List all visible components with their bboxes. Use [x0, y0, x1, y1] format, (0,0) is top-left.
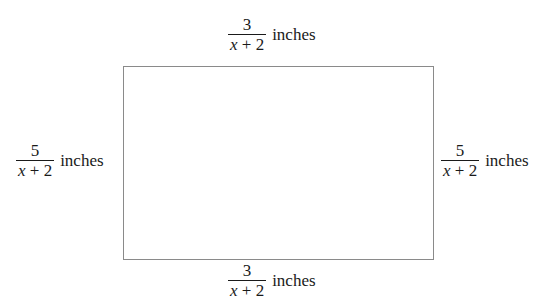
numerator: 5: [454, 142, 467, 160]
unit: inches: [272, 25, 315, 45]
left-side-label: 5 x + 2 inches: [16, 142, 104, 180]
fraction: 3 x + 2: [228, 16, 266, 54]
unit: inches: [485, 151, 528, 171]
bottom-side-label: 3 x + 2 inches: [228, 262, 316, 300]
denominator: x + 2: [228, 281, 266, 300]
unit: inches: [60, 151, 103, 171]
variable: x: [230, 281, 238, 300]
denominator-rest: + 2: [451, 161, 478, 180]
denominator: x + 2: [228, 35, 266, 54]
denominator-rest: + 2: [26, 161, 53, 180]
denominator: x + 2: [16, 161, 54, 180]
numerator: 3: [241, 16, 254, 34]
fraction: 5 x + 2: [16, 142, 54, 180]
numerator: 5: [29, 142, 42, 160]
variable: x: [230, 35, 238, 54]
right-side-label: 5 x + 2 inches: [441, 142, 529, 180]
variable: x: [18, 161, 26, 180]
denominator: x + 2: [441, 161, 479, 180]
fraction: 5 x + 2: [441, 142, 479, 180]
top-side-label: 3 x + 2 inches: [228, 16, 316, 54]
variable: x: [443, 161, 451, 180]
fraction: 3 x + 2: [228, 262, 266, 300]
unit: inches: [272, 271, 315, 291]
denominator-rest: + 2: [238, 35, 265, 54]
rectangle: [123, 66, 434, 260]
numerator: 3: [241, 262, 254, 280]
denominator-rest: + 2: [238, 281, 265, 300]
